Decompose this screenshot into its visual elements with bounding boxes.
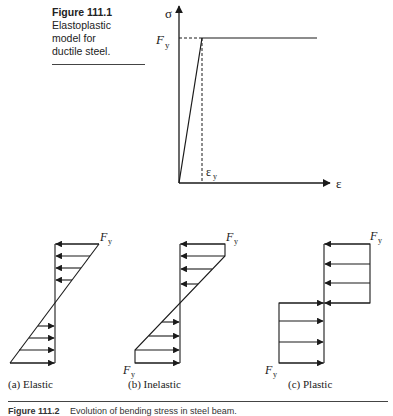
panel-inelastic-fy-bottom-label: F y <box>122 363 135 379</box>
fy-label-sub: y <box>108 237 112 246</box>
panel-inelastic-fy-top-label: F y <box>225 230 238 246</box>
fy-label-main: F <box>225 230 234 244</box>
panel-inelastic <box>135 244 225 363</box>
fy-label-sub: y <box>165 40 170 50</box>
tension-block-outline <box>279 303 324 363</box>
panel-plastic-fy-bottom-label: F y <box>264 363 277 379</box>
fy-tick-label: F y <box>155 32 170 50</box>
fy-label-main: F <box>264 363 273 377</box>
panel-plastic <box>279 244 370 363</box>
ey-label-main: ε <box>206 165 211 179</box>
stress-strain-graph <box>179 6 330 183</box>
panel-elastic <box>10 244 99 363</box>
figure-number: Figure 111.2 <box>8 406 60 416</box>
caption-text: Evolution of bending stress in steel bea… <box>70 406 237 416</box>
panel-label-plastic: (c) Plastic <box>288 378 332 390</box>
ey-label-sub: y <box>213 172 217 181</box>
epsilon-axis-label: ε <box>336 176 342 191</box>
fy-label-main: F <box>369 229 378 243</box>
compression-block-outline <box>324 244 370 303</box>
fy-label-main: F <box>155 32 165 47</box>
fy-label-sub: y <box>234 237 238 246</box>
caption-rule <box>8 401 388 402</box>
panel-label-inelastic: (b) Inelastic <box>128 378 181 390</box>
panel-plastic-fy-top-label: F y <box>369 229 382 245</box>
fy-label-sub: y <box>273 370 277 379</box>
epsilon-y-tick-label: ε y <box>206 165 217 181</box>
panel-label-elastic: (a) Elastic <box>8 378 53 390</box>
fy-label-main: F <box>122 363 131 377</box>
panel-elastic-fy-label: F y <box>99 230 112 246</box>
sigma-axis-label: σ <box>165 6 172 21</box>
figure-111-2-caption: Figure 111.2 Evolution of bending stress… <box>8 406 237 416</box>
elastic-line <box>179 38 202 183</box>
fy-label-main: F <box>99 230 108 244</box>
fy-label-sub: y <box>378 236 382 245</box>
